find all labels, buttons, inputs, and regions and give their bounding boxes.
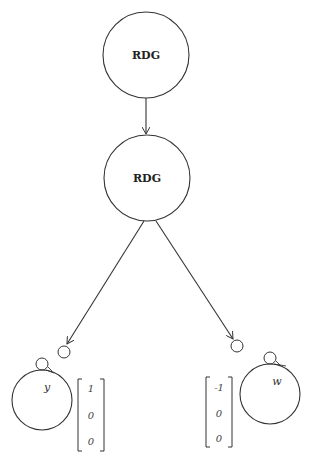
node-top: RDG (103, 12, 189, 98)
leaf-left: y 1 0 0 (12, 358, 104, 451)
svg-text:0: 0 (88, 436, 95, 447)
node-top-label: RDG (132, 49, 160, 62)
vector-right: -1 0 0 (206, 377, 232, 447)
leaf-left-variable: y (43, 381, 51, 394)
svg-text:1: 1 (88, 383, 94, 394)
node-middle-label: RDG (133, 172, 161, 185)
terminal-left (58, 346, 70, 358)
vector-left: 1 0 0 (78, 379, 104, 451)
edge-middle-right (156, 221, 233, 339)
svg-text:0: 0 (216, 408, 223, 419)
leaf-right-variable: w (272, 375, 282, 388)
svg-text:-1: -1 (214, 382, 224, 393)
leaf-right: w -1 0 0 (206, 352, 300, 447)
tree-diagram: RDG RDG y 1 0 0 w -1 0 (0, 0, 319, 459)
svg-text:0: 0 (216, 433, 223, 444)
self-loop-right (264, 352, 276, 364)
svg-text:0: 0 (88, 410, 95, 421)
terminal-right (231, 340, 243, 352)
edge-middle-left (67, 221, 144, 344)
node-middle: RDG (104, 135, 190, 221)
self-loop-left (36, 358, 48, 370)
